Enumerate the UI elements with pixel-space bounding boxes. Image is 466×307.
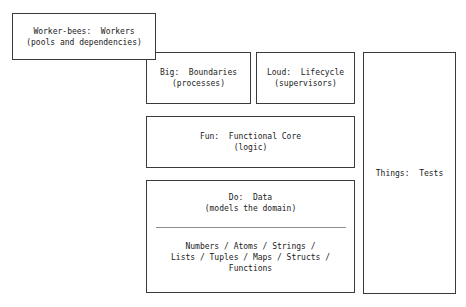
box-do-data[interactable]: Do: Data (models the domain) Numbers / A… [146, 180, 355, 293]
diagram-canvas: Worker-bees: Workers (pools and dependen… [0, 0, 466, 307]
box-things-tests-label: Things: Tests [376, 168, 443, 179]
box-do-data-divider [156, 227, 346, 228]
box-worker-bees-label: Worker-bees: Workers (pools and dependen… [26, 26, 142, 48]
box-fun-functional-core[interactable]: Fun: Functional Core (logic) [146, 116, 355, 168]
box-loud-lifecycle-label: Loud: Lifecycle (supervisors) [267, 67, 344, 89]
box-worker-bees[interactable]: Worker-bees: Workers (pools and dependen… [12, 13, 156, 60]
box-do-data-heading: Do: Data (models the domain) [205, 192, 297, 214]
box-big-boundaries[interactable]: Big: Boundaries (processes) [146, 52, 251, 104]
box-do-data-primitives-label: Numbers / Atoms / Strings / Lists / Tupl… [171, 241, 330, 274]
box-big-boundaries-label: Big: Boundaries (processes) [160, 67, 237, 89]
box-things-tests[interactable]: Things: Tests [363, 52, 456, 294]
box-loud-lifecycle[interactable]: Loud: Lifecycle (supervisors) [256, 52, 355, 104]
box-fun-functional-core-label: Fun: Functional Core (logic) [200, 131, 301, 153]
